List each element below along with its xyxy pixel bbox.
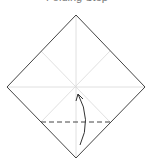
fold-arrow-icon — [76, 94, 86, 145]
crease-lines — [7, 15, 145, 158]
origami-diagram — [0, 0, 154, 167]
